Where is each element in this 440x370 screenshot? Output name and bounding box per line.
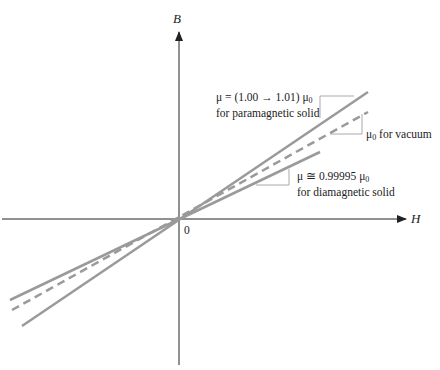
diamagnetic-description: for diamagnetic solid	[297, 186, 395, 199]
paramagnetic-mu-expression: μ = (1.00 → 1.01) μ	[216, 91, 309, 103]
diamagnetic-slope-triangle	[256, 169, 289, 185]
paramagnetic-slope-triangle	[320, 96, 354, 118]
diamagnetic-label: μ ≅ 0.99995 μ0 for diamagnetic solid	[297, 170, 395, 199]
vacuum-label: μ0 for vacuum	[366, 128, 432, 144]
subscript: 0	[309, 96, 313, 105]
diamagnetic-mu-expression: μ ≅ 0.99995 μ	[297, 170, 365, 182]
h-axis-label: H	[411, 212, 420, 225]
vacuum-description: for vacuum	[376, 128, 432, 140]
b-axis-label: B	[173, 12, 181, 25]
paramagnetic-label: μ = (1.00 → 1.01) μ0 for paramagnetic so…	[216, 91, 319, 120]
diamagnetic-line	[10, 152, 320, 300]
subscript: 0	[365, 175, 369, 184]
paramagnetic-description: for paramagnetic solid	[216, 107, 319, 120]
origin-label: 0	[184, 224, 190, 237]
